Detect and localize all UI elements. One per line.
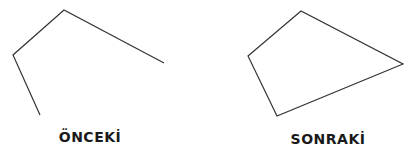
before-open-shape bbox=[13, 10, 164, 115]
after-label: SONRAKİ bbox=[278, 131, 378, 147]
after-closed-shape bbox=[248, 11, 403, 116]
before-label: ÖNCEKİ bbox=[40, 129, 140, 145]
